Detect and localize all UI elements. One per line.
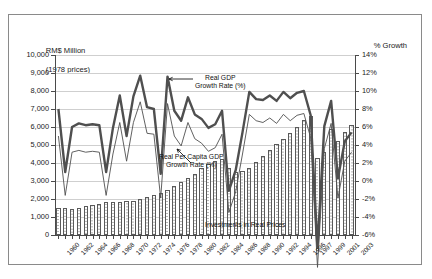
arrow-real-gdp — [169, 77, 193, 80]
arrow-real-per-capita-gdp — [177, 149, 191, 163]
annotation-arrows — [9, 15, 423, 266]
cropped-header-text — [14, 0, 144, 10]
chart-frame: RM$ Million (1978 prices) % Growth 01,00… — [8, 14, 422, 265]
chart-figure: RM$ Million (1978 prices) % Growth 01,00… — [0, 0, 432, 279]
